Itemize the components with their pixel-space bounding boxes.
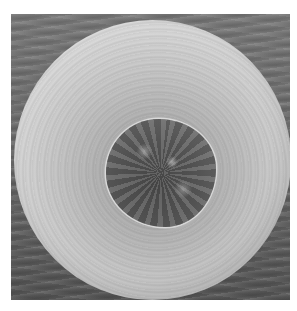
central-dark-spot	[106, 119, 216, 227]
micrograph-frame	[11, 14, 290, 300]
